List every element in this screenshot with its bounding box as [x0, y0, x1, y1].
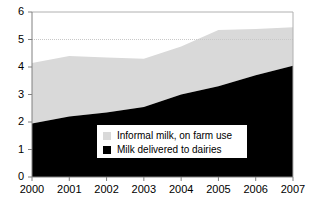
legend-swatch-milk-delivered — [103, 146, 111, 154]
legend-item-milk-delivered: Milk delivered to dairies — [103, 143, 222, 156]
x-axis-tick-label: 2001 — [52, 184, 86, 195]
x-axis-tick-label: 2002 — [90, 184, 124, 195]
y-axis-tick-label: 4 — [2, 61, 24, 72]
legend-label-informal-milk: Informal milk, on farm use — [117, 131, 232, 141]
x-axis-tick-label: 2005 — [201, 184, 235, 195]
plot-canvas — [0, 0, 316, 208]
y-axis-tick-label: 0 — [2, 171, 24, 182]
y-axis-tick-label: 5 — [2, 34, 24, 45]
y-axis-tick-label: 2 — [2, 116, 24, 127]
x-axis-tick-label: 2007 — [276, 184, 310, 195]
x-axis-tick-label: 2000 — [15, 184, 49, 195]
chart-legend: Informal milk, on farm use Milk delivere… — [96, 124, 248, 159]
x-axis-tick-label: 2004 — [164, 184, 198, 195]
x-axis-tick-label: 2003 — [127, 184, 161, 195]
y-axis-tick-label: 1 — [2, 144, 24, 155]
area-chart: Informal milk, on farm use Milk delivere… — [0, 0, 316, 208]
legend-item-informal-milk: Informal milk, on farm use — [103, 129, 232, 142]
legend-label-milk-delivered: Milk delivered to dairies — [117, 145, 222, 155]
y-axis-tick-label: 6 — [2, 6, 24, 17]
legend-swatch-informal-milk — [103, 132, 111, 140]
y-axis-tick-label: 3 — [2, 89, 24, 100]
x-axis-tick-label: 2006 — [239, 184, 273, 195]
